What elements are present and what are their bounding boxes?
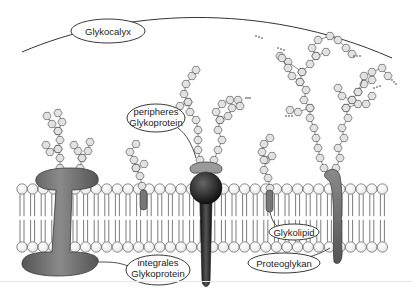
bottom-divider	[0, 281, 412, 282]
sugar-unit	[334, 144, 342, 151]
sugar-unit	[284, 64, 292, 71]
phospholipid	[292, 184, 302, 252]
phospholipid	[303, 184, 313, 252]
phospholipid	[229, 184, 239, 252]
phospholipid	[123, 184, 133, 252]
sugar-unit	[218, 136, 226, 143]
sugar-unit	[326, 32, 334, 39]
sugar-unit	[368, 92, 376, 99]
sugar-unit	[70, 141, 78, 148]
sugar-unit	[48, 120, 56, 127]
sugar-unit	[384, 72, 392, 79]
sugar-unit	[288, 72, 296, 79]
sugar-unit	[268, 152, 276, 159]
sugar-unit	[56, 136, 64, 143]
sugar-unit	[306, 104, 314, 111]
sugar-chain	[334, 84, 356, 103]
sugar-unit	[212, 108, 220, 115]
sugar-unit	[360, 72, 368, 79]
sugar-unit	[54, 109, 62, 116]
sugar-unit	[214, 126, 222, 133]
sugar-unit	[56, 154, 64, 161]
sugar-unit	[140, 160, 148, 167]
sugar-unit	[316, 154, 324, 161]
sugar-unit	[130, 156, 138, 163]
sugar-unit	[186, 108, 194, 115]
sugar-unit	[132, 140, 140, 147]
phospholipid	[282, 184, 292, 252]
sugar-unit	[334, 84, 342, 91]
sugar-unit	[260, 156, 268, 163]
phospholipid	[80, 184, 90, 252]
sugar-unit	[180, 90, 188, 97]
phospholipid	[250, 184, 260, 252]
phospholipid	[345, 184, 355, 252]
sugar-unit	[342, 44, 350, 51]
sugar-unit	[138, 182, 146, 189]
sugar-unit	[286, 106, 294, 113]
sugar-unit	[194, 126, 202, 133]
phospholipid	[377, 184, 387, 252]
sugar-unit	[368, 76, 376, 83]
phospholipid	[102, 184, 112, 252]
sugar-unit	[182, 80, 190, 87]
sugar-unit	[54, 127, 62, 134]
sugar-unit	[308, 44, 316, 51]
phospholipid	[112, 184, 122, 252]
sugar-unit	[302, 86, 310, 93]
sugar-unit	[348, 96, 356, 103]
sugar-unit	[264, 174, 272, 181]
sugar-unit	[378, 64, 386, 71]
sugar-unit	[314, 36, 322, 43]
sugar-unit	[338, 92, 346, 99]
svg-text:Glykolipid: Glykolipid	[273, 227, 314, 238]
glycolipid	[266, 190, 273, 212]
membrane-diagram: Glykocalyx peripheres Glykoprotein integ…	[0, 0, 412, 294]
sugar-unit	[46, 148, 54, 155]
sugar-unit	[368, 68, 376, 75]
sugar-unit	[338, 124, 346, 131]
phospholipid	[17, 184, 27, 252]
sugar-unit	[184, 98, 192, 105]
sugar-unit	[336, 154, 344, 161]
sugar-unit	[340, 134, 348, 141]
peripheral-glycoprotein	[190, 162, 222, 287]
sugar-unit	[228, 104, 236, 111]
sugar-unit	[126, 148, 134, 155]
sugar-unit	[224, 112, 232, 119]
phospholipid	[27, 184, 37, 252]
sugar-unit	[344, 114, 352, 121]
sugar-unit	[342, 104, 350, 111]
svg-text:Glykoprotein: Glykoprotein	[131, 268, 184, 279]
sugar-unit	[194, 146, 202, 153]
chain-continuation	[245, 97, 251, 99]
sugar-unit	[312, 134, 320, 141]
sugar-unit	[348, 50, 356, 57]
sugar-unit	[192, 66, 200, 73]
sugar-unit	[296, 78, 304, 85]
sugar-unit	[362, 100, 370, 107]
sugar-unit	[306, 60, 314, 67]
sugar-unit	[226, 96, 234, 103]
sugar-unit	[258, 148, 266, 155]
sugar-unit	[136, 172, 144, 179]
chain-continuation	[277, 47, 285, 51]
phospholipid	[367, 184, 377, 252]
sugar-unit	[278, 54, 286, 61]
chain-continuation	[353, 55, 361, 57]
sugar-unit	[216, 116, 224, 123]
sugar-unit	[298, 68, 306, 75]
sugar-unit	[214, 146, 222, 153]
sugar-unit	[260, 140, 268, 147]
sugar-unit	[322, 48, 330, 55]
phospholipid	[314, 184, 324, 252]
phospholipid	[176, 184, 186, 252]
sugar-unit	[86, 138, 94, 145]
sugar-unit	[84, 147, 92, 154]
svg-text:Proteoglykan: Proteoglykan	[256, 258, 311, 269]
sugar-unit	[314, 144, 322, 151]
sugar-unit	[310, 124, 318, 131]
svg-text:peripheres: peripheres	[134, 106, 179, 117]
phospholipid	[38, 184, 48, 252]
sugar-unit	[306, 114, 314, 121]
